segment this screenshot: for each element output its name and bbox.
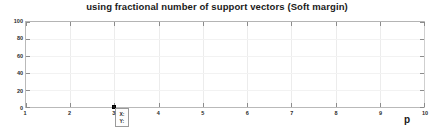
- tick-mark-y: [26, 73, 30, 74]
- tick-mark-y: [420, 73, 424, 74]
- x-tick-label: 4: [148, 110, 168, 117]
- y-tick-label: 80: [1, 35, 23, 41]
- gridline-vertical: [291, 22, 292, 107]
- x-tick-label: 7: [282, 110, 302, 117]
- tick-mark-y: [26, 56, 30, 57]
- tick-mark-x: [70, 22, 71, 26]
- tick-mark-x: [247, 103, 248, 107]
- tick-mark-y: [420, 90, 424, 91]
- tick-mark-x: [424, 103, 425, 107]
- tick-mark-x: [203, 22, 204, 26]
- tick-mark-x: [380, 103, 381, 107]
- tick-mark-x: [247, 22, 248, 26]
- tick-mark-x: [159, 103, 160, 107]
- x-tick-label: 5: [193, 110, 213, 117]
- gridline-vertical: [159, 22, 160, 107]
- x-axis-label: p: [404, 114, 410, 125]
- tick-mark-y: [26, 22, 30, 23]
- x-tick-label: 2: [59, 110, 79, 117]
- tick-mark-y: [26, 39, 30, 40]
- tick-mark-x: [380, 22, 381, 26]
- tick-mark-x: [291, 103, 292, 107]
- x-tick-label: 6: [237, 110, 257, 117]
- tick-mark-x: [291, 22, 292, 26]
- tick-mark-x: [114, 103, 115, 107]
- gridline-vertical: [70, 22, 71, 107]
- x-axis-tick-labels: 12345678910: [25, 110, 425, 120]
- x-tick-label: 9: [371, 110, 391, 117]
- data-cursor: X: Y:: [26, 22, 424, 107]
- plot-area[interactable]: X: Y:: [25, 21, 425, 108]
- tick-mark-y: [420, 56, 424, 57]
- x-tick-label: 1: [15, 110, 35, 117]
- tick-mark-y: [420, 22, 424, 23]
- x-tick-label: 3: [104, 110, 124, 117]
- tick-mark-y: [420, 39, 424, 40]
- tick-mark-x: [336, 103, 337, 107]
- tick-mark-x: [70, 103, 71, 107]
- gridline-vertical: [203, 22, 204, 107]
- tick-mark-y: [420, 107, 424, 108]
- gridline-horizontal: [26, 73, 424, 74]
- gridline-horizontal: [26, 56, 424, 57]
- x-tick-label: 8: [326, 110, 346, 117]
- tick-mark-x: [114, 22, 115, 26]
- y-tick-label: 40: [1, 70, 23, 76]
- gridline-vertical: [247, 22, 248, 107]
- tick-mark-y: [26, 90, 30, 91]
- matlab-figure: using fractional number of support vecto…: [0, 0, 434, 133]
- tick-mark-x: [203, 103, 204, 107]
- y-axis-tick-labels: 100806040200: [0, 21, 23, 108]
- tick-mark-x: [159, 22, 160, 26]
- tick-mark-x: [336, 22, 337, 26]
- gridline-vertical: [380, 22, 381, 107]
- x-tick-label: 10: [415, 110, 434, 117]
- tick-mark-x: [424, 22, 425, 26]
- gridline-horizontal: [26, 39, 424, 40]
- page-title: using fractional number of support vecto…: [0, 1, 434, 12]
- y-tick-label: 20: [1, 88, 23, 94]
- gridline-vertical: [114, 22, 115, 107]
- y-tick-label: 100: [1, 18, 23, 24]
- gridline-horizontal: [26, 90, 424, 91]
- y-tick-label: 60: [1, 53, 23, 59]
- gridline-vertical: [336, 22, 337, 107]
- tick-mark-y: [26, 107, 30, 108]
